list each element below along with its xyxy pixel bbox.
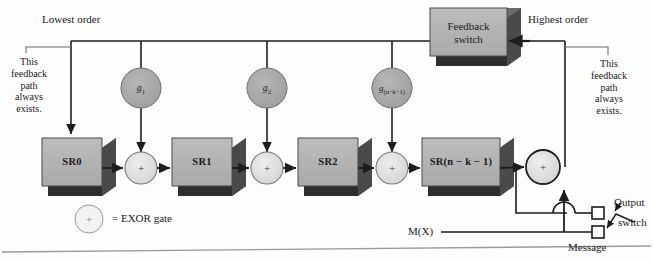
shift-register-block-sr1[interactable] (172, 138, 246, 196)
note-feedback-left-l1: This (0, 56, 58, 68)
gain-label-gn: g(n−k−1) (366, 83, 418, 95)
sr2-label: SR2 (298, 156, 358, 167)
output-switch-contact[interactable] (592, 207, 604, 219)
exor-gate-output-symbol: + (533, 161, 553, 173)
note-feedback-left-l3: path (0, 80, 58, 92)
leader-left-note (26, 47, 71, 53)
message-label: Message (568, 241, 607, 254)
exor-gate-3-symbol: + (382, 162, 402, 174)
leader-right-note (565, 47, 608, 55)
shift-register-block-srn[interactable] (422, 138, 514, 196)
output-switch-label-line2: switch (618, 216, 647, 229)
gain-label-g2: g2 (247, 82, 287, 96)
legend-exor-symbol: + (79, 213, 99, 225)
feedback-switch-label-l2: switch (430, 33, 507, 46)
diagram-canvas: Lowest order Highest order This feedback… (0, 0, 653, 262)
note-feedback-left-l5: exists. (0, 103, 58, 115)
feedback-switch-label: Feedback switch (430, 20, 507, 46)
exor-gate-2-symbol: + (257, 162, 277, 174)
label-highest-order: Highest order (528, 13, 588, 26)
sr1-label: SR1 (172, 156, 232, 167)
label-lowest-order: Lowest order (42, 13, 100, 26)
page-rule (2, 246, 651, 252)
note-feedback-right-l4: always (580, 93, 638, 105)
note-feedback-right-l1: This (580, 58, 638, 70)
legend-text: = EXOR gate (112, 212, 172, 225)
note-feedback-left: This feedback path always exists. (0, 56, 58, 115)
sr0-label: SR0 (42, 156, 102, 167)
message-switch-contact[interactable] (592, 226, 604, 238)
note-feedback-right-l3: path (580, 82, 638, 94)
gain-label-g1: g1 (121, 82, 161, 96)
shift-register-block-sr2[interactable] (298, 138, 372, 196)
note-feedback-right: This feedback path always exists. (580, 58, 638, 117)
note-feedback-right-l2: feedback (580, 70, 638, 82)
srn-label: SR(n − k − 1) (422, 156, 500, 167)
gain-label-g1-sub: 1 (142, 88, 146, 96)
feedback-switch-label-l1: Feedback (430, 20, 507, 33)
shift-register-block-sr0[interactable] (42, 138, 116, 196)
note-feedback-left-l2: feedback (0, 68, 58, 80)
exor-gate-1-symbol: + (131, 162, 151, 174)
note-feedback-right-l5: exists. (580, 105, 638, 117)
message-input-label: M(X) (408, 225, 433, 238)
note-feedback-left-l4: always (0, 91, 58, 103)
gain-label-g2-sub: 2 (268, 88, 272, 96)
output-switch-label-line1: Output (614, 196, 645, 209)
gain-label-gn-sub: (n−k−1) (384, 88, 405, 95)
